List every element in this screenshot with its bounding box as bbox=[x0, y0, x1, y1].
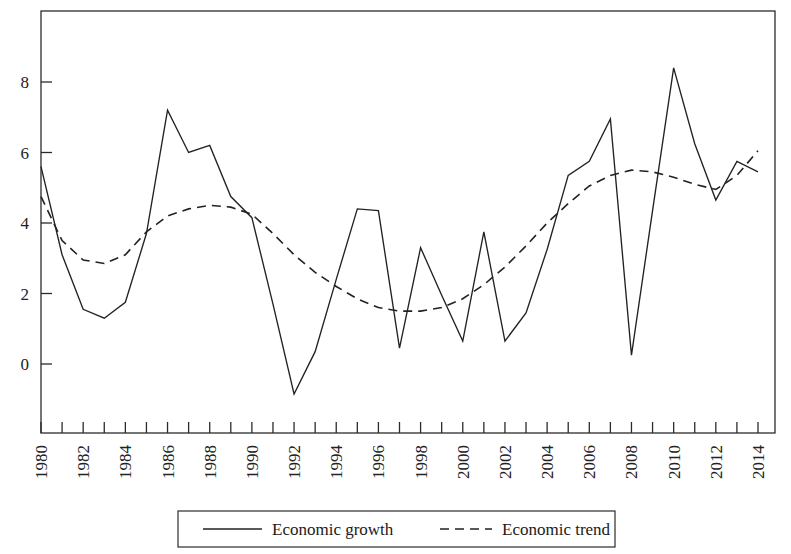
x-axis-tick-label: 2006 bbox=[580, 445, 599, 479]
legend-label-economic-trend: Economic trend bbox=[502, 520, 611, 539]
plot-frame bbox=[41, 11, 775, 433]
x-axis-tick-label: 1998 bbox=[412, 445, 431, 479]
y-axis-tick-group bbox=[41, 82, 52, 364]
y-axis-tick-label: 6 bbox=[21, 144, 30, 163]
series-line-economic-trend bbox=[41, 151, 758, 311]
x-axis-tick-label: 1990 bbox=[243, 445, 262, 479]
x-axis-tick-label: 1986 bbox=[159, 445, 178, 479]
series-layer bbox=[41, 68, 758, 394]
x-axis-tick-label: 2004 bbox=[538, 445, 557, 480]
x-axis-tick-label: 2008 bbox=[622, 445, 641, 479]
x-axis-tick-label: 1994 bbox=[327, 445, 346, 480]
x-axis-tick-group bbox=[41, 422, 758, 433]
x-axis-tick-label: 1980 bbox=[32, 445, 51, 479]
y-axis-tick-label: 4 bbox=[21, 214, 30, 233]
economic-growth-trend-chart: 02468 1980198219841986198819901992199419… bbox=[0, 0, 791, 554]
y-axis-tick-label: 0 bbox=[21, 355, 30, 374]
x-axis-label-group: 1980198219841986198819901992199419961998… bbox=[32, 445, 768, 480]
x-axis-tick-label: 2002 bbox=[496, 445, 515, 479]
y-axis-label-group: 02468 bbox=[21, 73, 30, 374]
x-axis-tick-label: 1982 bbox=[74, 445, 93, 479]
x-axis-tick-label: 2014 bbox=[749, 445, 768, 480]
legend-label-economic-growth: Economic growth bbox=[272, 520, 394, 539]
x-axis-tick-label: 2012 bbox=[707, 445, 726, 479]
x-axis-tick-label: 2010 bbox=[665, 445, 684, 479]
y-axis-tick-label: 8 bbox=[21, 73, 30, 92]
x-axis-tick-label: 1996 bbox=[369, 445, 388, 479]
x-axis-tick-label: 1984 bbox=[116, 445, 135, 480]
x-axis-tick-label: 1988 bbox=[201, 445, 220, 479]
y-axis-tick-label: 2 bbox=[21, 285, 30, 304]
x-axis-tick-label: 1992 bbox=[285, 445, 304, 479]
chart-legend: Economic growth Economic trend bbox=[178, 511, 615, 547]
x-axis-tick-label: 2000 bbox=[454, 445, 473, 479]
